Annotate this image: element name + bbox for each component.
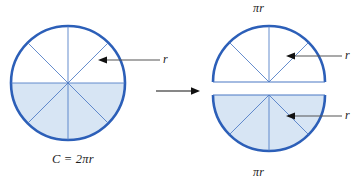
circle-spokes — [11, 26, 125, 140]
circumference-label: C = 2πr — [52, 152, 94, 167]
upper-semicircle-group — [213, 26, 342, 82]
lower-semicircle-group — [213, 95, 342, 151]
upper-arc-length-label: πr — [253, 1, 264, 16]
diagram-canvas: C = 2πr πr πr r r r — [0, 0, 363, 187]
radius-pointer-left — [98, 56, 160, 63]
lower-arc-length-label: πr — [253, 165, 264, 180]
radius-label-upper-semicircle: r — [345, 48, 350, 63]
radius-label-lower-semicircle: r — [345, 108, 350, 123]
whole-circle-group — [11, 26, 160, 140]
transform-arrow-icon — [156, 87, 200, 95]
radius-label-circle: r — [163, 52, 168, 67]
